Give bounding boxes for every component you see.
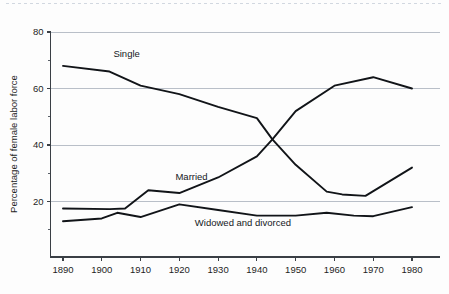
y-tick-label-80: 80 (33, 26, 44, 37)
y-tick-label-group: 20406080 (33, 26, 44, 207)
y-tick-label-20: 20 (33, 196, 44, 207)
series-label-single: Single (113, 48, 139, 59)
y-tick-label-60: 60 (33, 83, 44, 94)
x-tick-label-1940: 1940 (246, 264, 267, 275)
gridline-group (51, 32, 441, 202)
x-tick-label-1920: 1920 (169, 264, 190, 275)
x-tick-label-1960: 1960 (324, 264, 345, 275)
series-label-group: SingleMarriedWidowed and divorced (113, 48, 291, 227)
x-tick-label-1980: 1980 (401, 264, 422, 275)
x-tick-label-1910: 1910 (130, 264, 151, 275)
series-line-married (63, 77, 412, 209)
x-tick-label-1930: 1930 (208, 264, 229, 275)
series-label-married: Married (175, 171, 207, 182)
y-axis-title: Percentage of female labor force (8, 75, 19, 213)
series-path-group (63, 66, 412, 221)
x-tick-label-1890: 1890 (52, 264, 73, 275)
chart-container: 20406080 1890190019101920193019401950196… (0, 0, 449, 294)
x-tick-label-1950: 1950 (285, 264, 306, 275)
line-chart-plot: 20406080 1890190019101920193019401950196… (0, 0, 449, 294)
x-tick-label-1900: 1900 (91, 264, 112, 275)
series-line-single (63, 66, 412, 196)
series-label-widowed-and-divorced: Widowed and divorced (195, 217, 291, 228)
x-tick-label-group: 1890190019101920193019401950196019701980 (52, 264, 422, 275)
x-tick-label-1970: 1970 (363, 264, 384, 275)
y-tick-label-40: 40 (33, 139, 44, 150)
